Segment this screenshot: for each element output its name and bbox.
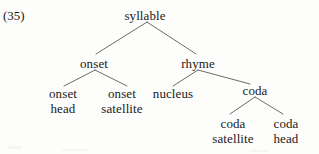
tree-node-label: coda [243,83,268,98]
tree-node-label: syllable [124,8,165,23]
tree-node-label: rhyme [181,56,215,71]
paper-speck [8,146,22,149]
example-number-label: (35) [3,8,25,23]
tree-edge-syllable-onset [96,22,147,54]
tree-node-onset-head: onsethead [49,86,77,116]
tree-node-label: onset [49,86,77,101]
tree-node-syllable: syllable [124,8,165,23]
tree-edge-onset-onsetsat [95,70,127,86]
tree-node-coda-satellite: codasatellite [212,116,253,146]
paper-speck [62,149,88,151]
tree-node-label-line2: head [49,101,77,116]
tree-node-coda-head: codahead [274,116,299,146]
tree-edges-layer [0,0,319,154]
tree-node-label: onset [101,86,142,101]
tree-edge-rhyme-nucleus [173,70,198,86]
tree-node-rhyme: rhyme [181,56,215,71]
tree-node-label: coda [274,116,299,131]
tree-node-label: onset [80,56,108,71]
tree-node-coda: coda [243,83,268,98]
tree-node-label-line2: satellite [101,101,142,116]
tree-node-label-line2: head [274,131,299,146]
paper-speck [250,150,268,152]
tree-node-label-line2: satellite [212,131,253,146]
syllable-structure-figure: (35) syllableonsetrhymeonsetheadonsetsat… [0,0,319,154]
tree-edge-onset-onsethead [64,70,95,86]
tree-node-onset-satellite: onsetsatellite [101,86,142,116]
tree-edge-coda-codasat [230,97,255,114]
tree-node-onset: onset [80,56,108,71]
tree-node-nucleus: nucleus [153,86,193,101]
tree-node-label: coda [212,116,253,131]
tree-edge-syllable-rhyme [147,22,196,54]
tree-edge-rhyme-coda [198,70,250,84]
tree-node-label: nucleus [153,86,193,101]
tree-edge-coda-codahead [255,97,283,114]
